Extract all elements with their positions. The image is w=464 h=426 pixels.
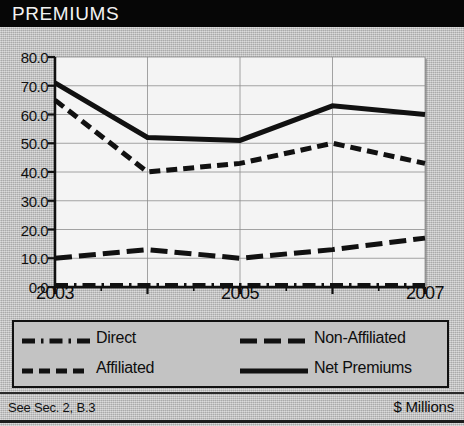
x-axis-tick-label: 2007	[406, 283, 444, 304]
y-axis-tick-label: 80.0	[21, 49, 48, 66]
chart-svg	[55, 57, 425, 287]
legend-swatch	[22, 368, 90, 374]
legend-swatch	[240, 368, 308, 374]
chart-legend: DirectAffiliatedNon-AffiliatedNet Premiu…	[12, 320, 449, 388]
legend-label: Affiliated	[96, 359, 154, 377]
bottom-border	[0, 420, 464, 423]
y-axis-labels: 0.010.020.030.040.050.060.070.080.0	[0, 27, 52, 302]
title-bar: PREMIUMS	[0, 0, 464, 27]
footer-units: $ Millions	[393, 398, 454, 415]
legend-label: Direct	[96, 329, 136, 347]
x-axis-tick-label: 2005	[221, 283, 259, 304]
y-axis-tick-label: 20.0	[21, 221, 48, 238]
footer-reference: See Sec. 2, B.3	[8, 400, 95, 415]
y-axis-tick-label: 60.0	[21, 106, 48, 123]
plot-container: 0.010.020.030.040.050.060.070.080.0 2003…	[0, 27, 464, 302]
legend-swatch	[22, 338, 90, 344]
y-axis-tick-label: 70.0	[21, 77, 48, 94]
y-axis-tick-label: 40.0	[21, 164, 48, 181]
y-axis-tick-label: 50.0	[21, 135, 48, 152]
y-axis-tick-label: 10.0	[21, 250, 48, 267]
footer-divider	[0, 392, 464, 394]
x-axis-tick-label: 2003	[36, 283, 74, 304]
legend-label: Net Premiums	[314, 359, 412, 377]
legend-swatch	[240, 338, 308, 344]
chart-card: PREMIUMS 0.010.020.030.040.050.060.070.0…	[0, 0, 464, 426]
page-title: PREMIUMS	[12, 3, 119, 25]
plot-area	[55, 57, 425, 287]
y-axis-tick-label: 30.0	[21, 192, 48, 209]
legend-label: Non-Affiliated	[314, 329, 406, 347]
